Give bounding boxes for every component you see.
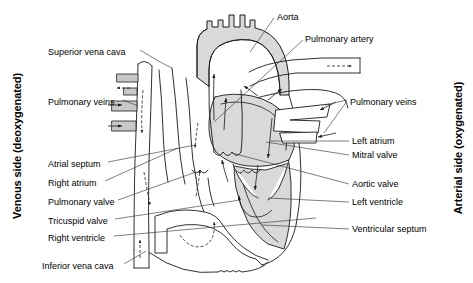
label-left-atrium: Left atrium <box>352 136 395 146</box>
pa-upper-wall <box>249 58 360 72</box>
pv-right-upper <box>274 104 330 133</box>
pulmonary-outflow-left <box>196 178 204 212</box>
flow-arrow-ra-mid <box>195 123 198 148</box>
flow-arrow-ra-down <box>142 90 143 133</box>
inferior-vena-cava <box>134 250 149 268</box>
aorta-shape <box>197 15 289 95</box>
label-inferior-vena-cava: Inferior vena cava <box>42 261 114 271</box>
venous-side-label: Venous side (deoxygenated) <box>11 66 23 226</box>
label-ventricular-septum: Ventricular septum <box>352 224 427 234</box>
label-aortic-valve: Aortic valve <box>352 179 399 189</box>
label-pulmonary-artery: Pulmonary artery <box>305 34 374 44</box>
leader-pulmonary-valve <box>118 172 196 200</box>
label-mitral-valve: Mitral valve <box>352 150 398 160</box>
right-atrium-outline-2 <box>172 68 185 184</box>
label-superior-vena-cava: Superior vena cava <box>48 47 126 57</box>
flow-arrow-asc-aorta <box>214 74 215 120</box>
svc-right-wall <box>149 66 153 253</box>
right-atrium-group <box>159 68 196 184</box>
leader-inferior-vena-cava <box>124 251 146 264</box>
label-atrial-septum: Atrial septum <box>48 159 101 169</box>
right-atrium-outline <box>159 70 168 182</box>
label-left-ventricle: Left ventricle <box>352 197 403 207</box>
heart-outline-group <box>112 15 360 273</box>
label-tricuspid-valve: Tricuspid valve <box>48 216 108 226</box>
label-right-ventricle: Right ventricle <box>48 233 105 243</box>
label-aorta: Aorta <box>277 12 299 22</box>
heart-anatomy-diagram: Venous side (deoxygenated) Arterial side… <box>0 0 473 283</box>
leader-pulmonary-veins-right-a <box>325 100 347 105</box>
label-pulmonary-veins-left: Pulmonary veins <box>48 97 115 107</box>
label-pulmonary-veins-right: Pulmonary veins <box>350 97 417 107</box>
atrial-septum-line <box>186 78 196 178</box>
rv-apex-floor <box>150 253 268 273</box>
right-ventricle-cavity <box>155 216 262 265</box>
pv-stub-4 <box>124 88 137 95</box>
pulmonary-veins-left-group <box>112 74 138 131</box>
pv-stub-2 <box>112 101 137 111</box>
leader-superior-vena-cava <box>140 50 172 68</box>
leader-atrial-septum <box>108 145 195 162</box>
pv-right-lower <box>280 132 317 143</box>
aorta-structure <box>197 15 289 95</box>
pv-stub-1 <box>117 74 138 82</box>
pulmonary-outflow-right <box>208 178 214 206</box>
label-right-atrium: Right atrium <box>48 178 97 188</box>
pulmonary-veins-right-group <box>274 104 330 143</box>
label-pulmonary-valve: Pulmonary valve <box>48 197 115 207</box>
flow-arrow-pv-right-2 <box>318 133 336 137</box>
flow-arrow-lvot <box>222 160 228 182</box>
pa-lower-wall <box>250 73 360 86</box>
svc-top-rim <box>138 61 152 66</box>
arterial-side-label: Arterial side (oxygenated) <box>452 68 464 228</box>
